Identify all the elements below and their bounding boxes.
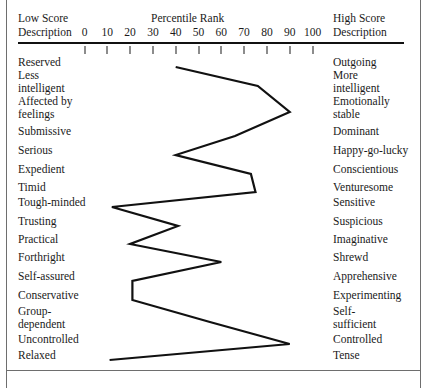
high-score-label-9: Imaginative — [333, 233, 388, 246]
low-score-label-11: Self-assured — [18, 270, 75, 283]
axis-tick-label-0: 0 — [82, 26, 88, 39]
axis-tick-label-60: 60 — [216, 26, 228, 39]
high-score-label-8: Suspicious — [333, 215, 383, 228]
axis-tick-mark-90 — [289, 46, 290, 54]
high-score-label-11: Apprehensive — [333, 270, 397, 283]
low-score-label-10: Forthright — [18, 251, 65, 264]
axis-tick-mark-40 — [175, 46, 176, 54]
high-score-label-12: Experimenting — [333, 289, 401, 302]
frame-bottom-border — [6, 370, 421, 371]
high-score-label-2: Emotionally stable — [333, 95, 390, 120]
axis-tick-mark-30 — [152, 46, 153, 54]
high-score-label-13: Self- sufficient — [333, 305, 376, 330]
axis-tick-mark-20 — [130, 46, 131, 54]
high-score-label-0: Outgoing — [333, 56, 376, 69]
low-score-label-3: Submissive — [18, 125, 71, 138]
low-score-label-5: Expedient — [18, 163, 65, 176]
high-score-label-10: Shrewd — [333, 251, 368, 264]
low-score-label-13: Group- dependent — [18, 305, 65, 330]
high-score-label-3: Dominant — [333, 125, 379, 138]
low-score-label-6: Timid — [18, 181, 46, 194]
high-score-label-6: Venturesome — [333, 181, 393, 194]
axis-tick-mark-60 — [221, 46, 222, 54]
low-score-label-7: Tough-minded — [18, 196, 86, 209]
axis-tick-label-100: 100 — [304, 26, 321, 39]
low-score-label-12: Conservative — [18, 289, 79, 302]
frame-right-border — [420, 0, 421, 388]
high-score-label-7: Sensitive — [333, 196, 375, 209]
high-score-header-line1: High Score — [333, 12, 385, 25]
low-score-label-1: Less intelligent — [18, 69, 65, 94]
axis-tick-label-40: 40 — [170, 26, 182, 39]
high-score-header-line2: Description — [333, 26, 387, 39]
low-score-label-4: Serious — [18, 144, 53, 157]
high-score-label-14: Controlled — [333, 333, 382, 346]
high-score-label-15: Tense — [333, 349, 360, 362]
axis-tick-label-90: 90 — [284, 26, 296, 39]
low-score-label-8: Trusting — [18, 215, 57, 228]
axis-tick-label-10: 10 — [102, 26, 114, 39]
high-score-label-5: Conscientious — [333, 163, 398, 176]
low-score-label-14: Uncontrolled — [18, 333, 79, 346]
axis-tick-mark-10 — [107, 46, 108, 54]
frame-left-border — [6, 0, 7, 388]
axis-tick-label-30: 30 — [147, 26, 159, 39]
axis-tick-mark-70 — [244, 46, 245, 54]
low-score-label-15: Relaxed — [18, 349, 56, 362]
profile-polyline — [110, 67, 290, 360]
low-score-header-line1: Low Score — [18, 12, 68, 25]
low-score-label-0: Reserved — [18, 56, 61, 69]
axis-rule — [18, 42, 404, 44]
low-score-label-9: Practical — [18, 233, 58, 246]
high-score-label-4: Happy-go-lucky — [333, 144, 408, 157]
axis-tick-mark-100 — [312, 46, 313, 54]
axis-title: Percentile Rank — [151, 12, 224, 25]
high-score-label-1: More intelligent — [333, 69, 380, 94]
low-score-label-2: Affected by feelings — [18, 95, 72, 120]
axis-tick-mark-0 — [84, 46, 85, 54]
axis-tick-label-80: 80 — [261, 26, 273, 39]
axis-tick-label-70: 70 — [238, 26, 250, 39]
axis-tick-mark-50 — [198, 46, 199, 54]
axis-tick-mark-80 — [266, 46, 267, 54]
axis-tick-label-20: 20 — [124, 26, 136, 39]
low-score-header-line2: Description — [18, 26, 72, 39]
axis-tick-label-50: 50 — [193, 26, 205, 39]
sixteen-pf-profile-chart: Low Score Description Percentile Rank Hi… — [0, 0, 427, 388]
